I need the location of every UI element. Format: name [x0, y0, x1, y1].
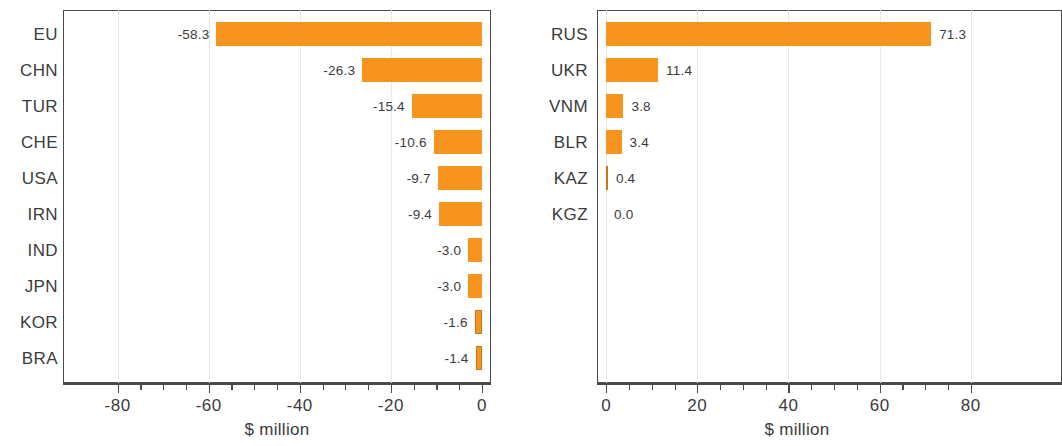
- bar-usa: [438, 166, 482, 190]
- gridline: [209, 10, 210, 383]
- category-label-bra: BRA: [22, 350, 58, 367]
- x-tick-major: [209, 385, 210, 393]
- x-axis-line: [597, 383, 1062, 385]
- category-label-chn: CHN: [20, 62, 58, 79]
- category-label-jpn: JPN: [25, 278, 58, 295]
- bar-ukr: [606, 58, 658, 82]
- x-tick-minor: [140, 385, 141, 390]
- category-label-kgz: KGZ: [552, 206, 588, 223]
- category-label-kor: KOR: [20, 314, 58, 331]
- x-tick-minor: [345, 385, 346, 390]
- category-label-blr: BLR: [554, 134, 588, 151]
- left-axis-title: $ million: [63, 421, 491, 438]
- value-label-kaz: 0.4: [616, 172, 676, 186]
- bar-kaz: [606, 166, 608, 190]
- bar-kor: [475, 310, 482, 334]
- x-tick-minor: [743, 385, 744, 390]
- value-label-blr: 3.4: [630, 136, 690, 150]
- x-tick-major: [788, 385, 789, 393]
- gridline: [880, 10, 881, 383]
- value-label-rus: 71.3: [939, 28, 999, 42]
- x-tick-minor: [902, 385, 903, 390]
- x-tick-minor: [163, 385, 164, 390]
- right-chart-panel: RUSUKRVNMBLRKAZKGZ 71.311.43.83.40.40.0 …: [509, 0, 1018, 446]
- x-tick-label: 0: [566, 397, 646, 414]
- bar-ind: [468, 238, 482, 262]
- x-tick-label: 20: [657, 397, 737, 414]
- category-label-tur: TUR: [22, 98, 58, 115]
- category-label-che: CHE: [21, 134, 58, 151]
- bar-bra: [476, 346, 482, 370]
- bar-jpn: [468, 274, 482, 298]
- x-tick-major: [300, 385, 301, 393]
- category-label-rus: RUS: [551, 26, 588, 43]
- x-tick-label: 60: [840, 397, 920, 414]
- value-label-vnm: 3.8: [631, 100, 691, 114]
- category-label-eu: EU: [34, 26, 58, 43]
- x-tick-major: [482, 385, 483, 393]
- value-label-bra: -1.4: [409, 352, 469, 366]
- x-tick-minor: [254, 385, 255, 390]
- x-tick-minor: [323, 385, 324, 390]
- x-tick-minor: [629, 385, 630, 390]
- x-tick-minor: [720, 385, 721, 390]
- category-label-kaz: KAZ: [554, 170, 588, 187]
- x-tick-major: [391, 385, 392, 393]
- x-tick-minor: [231, 385, 232, 390]
- value-label-kgz: 0.0: [614, 208, 674, 222]
- value-label-ind: -3.0: [401, 244, 461, 258]
- category-label-vnm: VNM: [549, 98, 588, 115]
- value-label-che: -10.6: [367, 136, 427, 150]
- x-tick-minor: [766, 385, 767, 390]
- x-tick-minor: [368, 385, 369, 390]
- x-tick-major: [118, 385, 119, 393]
- category-label-irn: IRN: [28, 206, 58, 223]
- value-label-usa: -9.7: [371, 172, 431, 186]
- x-tick-minor: [834, 385, 835, 390]
- x-tick-minor: [459, 385, 460, 390]
- category-label-ukr: UKR: [551, 62, 588, 79]
- value-label-jpn: -3.0: [401, 280, 461, 294]
- x-tick-minor: [925, 385, 926, 390]
- bar-vnm: [606, 94, 623, 118]
- x-tick-label: 40: [748, 397, 828, 414]
- bar-irn: [439, 202, 482, 226]
- left-chart-panel: EUCHNTURCHEUSAIRNINDJPNKORBRA -58.3-26.3…: [0, 0, 509, 446]
- x-tick-minor: [277, 385, 278, 390]
- x-tick-label: -80: [78, 397, 158, 414]
- bar-tur: [412, 94, 482, 118]
- x-tick-label: -40: [260, 397, 340, 414]
- x-tick-label: 80: [931, 397, 1011, 414]
- x-tick-major: [697, 385, 698, 393]
- gridline: [118, 10, 119, 383]
- bar-eu: [216, 22, 481, 46]
- value-label-kor: -1.6: [408, 316, 468, 330]
- x-tick-label: -60: [169, 397, 249, 414]
- gridline: [788, 10, 789, 383]
- x-tick-minor: [436, 385, 437, 390]
- x-tick-minor: [675, 385, 676, 390]
- x-tick-minor: [186, 385, 187, 390]
- value-label-eu: -58.3: [149, 28, 209, 42]
- bar-rus: [606, 22, 931, 46]
- x-tick-minor: [652, 385, 653, 390]
- x-tick-label: -20: [351, 397, 431, 414]
- x-tick-minor: [948, 385, 949, 390]
- x-tick-major: [606, 385, 607, 393]
- x-tick-major: [971, 385, 972, 393]
- value-label-tur: -15.4: [345, 100, 405, 114]
- x-tick-minor: [811, 385, 812, 390]
- value-label-irn: -9.4: [372, 208, 432, 222]
- category-label-ind: IND: [28, 242, 58, 259]
- x-tick-major: [880, 385, 881, 393]
- x-tick-minor: [414, 385, 415, 390]
- category-label-usa: USA: [22, 170, 58, 187]
- value-label-chn: -26.3: [295, 64, 355, 78]
- bar-chn: [362, 58, 482, 82]
- value-label-ukr: 11.4: [666, 64, 726, 78]
- right-axis-title: $ million: [597, 421, 997, 438]
- bar-che: [434, 130, 482, 154]
- gridline: [971, 10, 972, 383]
- bar-blr: [606, 130, 622, 154]
